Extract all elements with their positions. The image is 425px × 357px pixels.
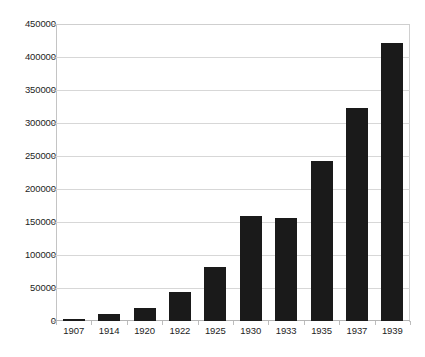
y-tick-label: 200000: [4, 184, 56, 194]
x-tick-label: 1914: [91, 325, 126, 337]
bar-1907: [63, 319, 85, 321]
x-tick-mark: [410, 321, 411, 325]
bar-1922: [169, 292, 191, 321]
bars: [56, 24, 410, 321]
x-tick-label: 1930: [233, 325, 268, 337]
y-tick-label: 350000: [4, 85, 56, 95]
y-tick-label: 100000: [4, 250, 56, 260]
y-tick-label: 50000: [4, 283, 56, 293]
x-tick-label: 1920: [127, 325, 162, 337]
x-axis: 1907191419201922192519301933193519371939: [56, 325, 410, 345]
bar-1930: [240, 216, 262, 321]
bar-chart: 0500001000001500002000002500003000003500…: [0, 0, 425, 357]
y-axis: 0500001000001500002000002500003000003500…: [0, 0, 56, 357]
x-tick-label: 1925: [198, 325, 233, 337]
bar-1925: [204, 267, 226, 321]
y-tick-label: 150000: [4, 217, 56, 227]
y-tick-label: 250000: [4, 151, 56, 161]
plot-area: [56, 24, 410, 321]
bar-1920: [134, 308, 156, 321]
bar-1939: [381, 43, 403, 321]
bar-1933: [275, 218, 297, 321]
x-tick-label: 1907: [56, 325, 91, 337]
y-tick-label: 450000: [4, 19, 56, 29]
bar-1935: [311, 161, 333, 321]
x-tick-label: 1939: [375, 325, 410, 337]
y-tick-label: 400000: [4, 52, 56, 62]
bar-1937: [346, 108, 368, 321]
x-tick-label: 1922: [162, 325, 197, 337]
bar-1914: [98, 314, 120, 321]
y-tick-label: 300000: [4, 118, 56, 128]
x-tick-label: 1935: [304, 325, 339, 337]
x-tick-label: 1933: [268, 325, 303, 337]
x-tick-label: 1937: [339, 325, 374, 337]
y-tick-label: 0: [4, 316, 56, 326]
